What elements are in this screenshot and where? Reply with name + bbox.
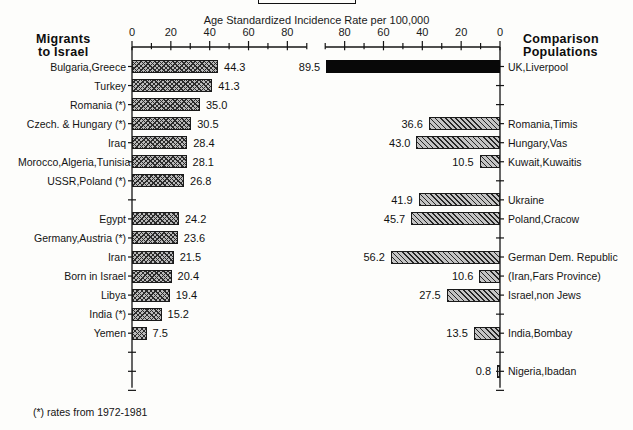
left-bar-value: 15.2 [168,307,189,321]
right-bar-value: 0.8 [0,364,491,378]
left-category-label: Turkey [18,79,126,93]
right-category-label: Romania,Timis [508,117,578,131]
right-bar-value: 10.5 [0,155,474,169]
right-bar [419,193,500,206]
right-category-label: (Iran,Fars Province) [508,269,601,283]
right-bar-value: 43.0 [0,136,410,150]
right-category-label: Ukraine [508,193,544,207]
left-bar-value: 23.6 [184,231,205,245]
right-category-label: Nigeria,Ibadan [508,364,576,378]
right-category-label: Kuwait,Kuwaitis [508,155,582,169]
right-category-label: India,Bombay [508,326,572,340]
right-tick-0: 0 [491,26,509,38]
right-bar-value: 89.5 [0,60,320,74]
left-tick-80: 80 [278,26,296,38]
right-bar-value: 41.9 [0,193,413,207]
right-bar [480,155,500,168]
right-bar-value: 10.6 [0,269,473,283]
left-bar [132,98,200,111]
right-tick-20: 20 [452,26,470,38]
right-bar [391,251,500,264]
right-category-label: Israel,non Jews [508,288,581,302]
right-bar [497,365,500,378]
left-bar-value: 26.8 [190,174,211,188]
left-category-label: Romania (*) [18,98,126,112]
left-category-label: Germany,Austria (*) [18,231,126,245]
left-bar-value: 41.3 [218,79,239,93]
right-tick-60: 60 [374,26,392,38]
left-bar [132,308,162,321]
right-category-label: UK,Liverpool [508,60,568,74]
left-bar [132,79,212,92]
right-bar-highlight [326,60,500,73]
left-bar [132,174,184,187]
right-category-label: German Dem. Republic [508,250,618,264]
right-bar [411,212,500,225]
right-bar-value: 56.2 [0,250,385,264]
chart-figure: Age Standardized Incidence Rate per 100,… [0,0,633,430]
right-bar [416,136,500,149]
right-tick-80: 80 [336,26,354,38]
right-bar [429,117,500,130]
right-bar [479,270,500,283]
left-bar-value: 35.0 [206,98,227,112]
right-bar-value: 27.5 [0,288,441,302]
right-category-label: Hungary,Vas [508,136,567,150]
left-category-label: India (*) [18,307,126,321]
left-bar [132,231,178,244]
right-category-label: Poland,Cracow [508,212,579,226]
right-bar-value: 13.5 [0,326,468,340]
left-tick-40: 40 [201,26,219,38]
left-category-label: USSR,Poland (*) [18,174,126,188]
right-bar-value: 45.7 [0,212,405,226]
footnote: (*) rates from 1972-1981 [33,406,147,418]
left-tick-0: 0 [123,26,141,38]
right-bar-value: 36.6 [0,117,423,131]
left-tick-60: 60 [240,26,258,38]
left-tick-20: 20 [162,26,180,38]
right-bar [447,289,500,302]
right-tick-40: 40 [413,26,431,38]
right-bar [474,327,500,340]
